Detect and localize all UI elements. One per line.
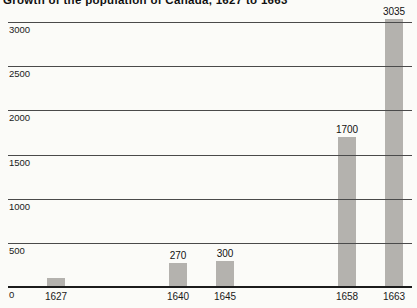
- x-tick-label-1663: 1663: [374, 291, 414, 302]
- y-tick-label-1000: 1000: [9, 202, 30, 212]
- bar-value-label-1658: 1700: [325, 124, 369, 135]
- plot-area: 1627270164030016451700165830351663050010…: [0, 0, 417, 308]
- y-tick-label-1500: 1500: [9, 158, 30, 168]
- bar-1640: [169, 263, 187, 287]
- bar-1645: [216, 261, 234, 288]
- population-bar-chart: Growth of the population of Canada, 1627…: [0, 0, 417, 308]
- bar-value-label-1663: 3035: [372, 6, 416, 17]
- gridline-3000: [8, 22, 412, 23]
- gridline-2000: [8, 110, 412, 111]
- x-tick-label-1640: 1640: [158, 291, 198, 302]
- bar-value-label-1640: 270: [156, 250, 200, 261]
- gridline-2500: [8, 66, 412, 67]
- gridline-1500: [8, 155, 412, 156]
- y-tick-label-3000: 3000: [9, 25, 30, 35]
- bar-value-label-1645: 300: [203, 248, 247, 259]
- y-tick-label-500: 500: [9, 246, 25, 256]
- y-tick-label-2000: 2000: [9, 113, 30, 123]
- x-axis-baseline: [8, 286, 412, 289]
- bar-1663: [385, 19, 403, 287]
- bar-1658: [338, 137, 356, 287]
- y-tick-label-2500: 2500: [9, 69, 30, 79]
- x-tick-label-1645: 1645: [205, 291, 245, 302]
- x-tick-label-1658: 1658: [327, 291, 367, 302]
- gridline-1000: [8, 199, 412, 200]
- x-tick-label-1627: 1627: [36, 291, 76, 302]
- y-tick-label-0: 0: [9, 290, 14, 300]
- gridline-500: [8, 243, 412, 244]
